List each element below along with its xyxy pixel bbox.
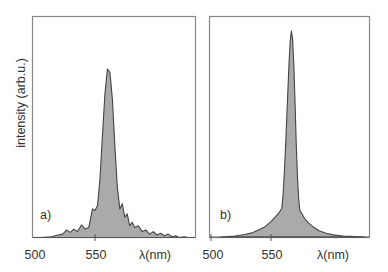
panel-a-tick-label-500: 500 (25, 248, 46, 262)
figure: intensity (arb.u.) a) 500 550 λ(nm) b) 5… (0, 0, 388, 272)
panel-a: intensity (arb.u.) a) 500 550 λ(nm) (14, 17, 196, 263)
panel-b-label: b) (220, 208, 231, 222)
panel-b-tick-label-550: 550 (262, 248, 283, 262)
panel-b: b) 500 550 λ(nm) (203, 17, 370, 263)
panel-b-x-axis-label: λ(nm) (317, 248, 349, 262)
y-axis-label: intensity (arb.u.) (14, 58, 28, 148)
panel-a-tick-label-550: 550 (86, 248, 107, 262)
panel-b-tick-label-500: 500 (203, 248, 224, 262)
panel-a-label: a) (40, 208, 51, 222)
panel-a-x-axis-label: λ(nm) (139, 248, 171, 262)
